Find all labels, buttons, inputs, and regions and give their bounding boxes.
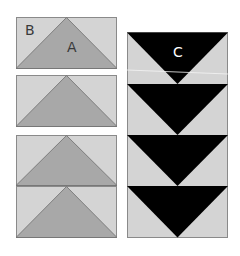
goose-unit-2-shape <box>16 75 117 127</box>
label-b: B <box>25 22 35 38</box>
label-c: C <box>173 44 183 60</box>
goose-unit-2 <box>16 75 117 127</box>
goose-unit-1: B A <box>16 17 117 69</box>
flying-geese-strip: C <box>127 32 228 238</box>
label-a: A <box>67 39 77 55</box>
flying-geese-strip-shape <box>127 32 228 238</box>
goose-unit-4-shape <box>16 186 117 238</box>
goose-unit-3-shape <box>16 135 117 186</box>
goose-unit-3 <box>16 135 117 186</box>
goose-unit-4 <box>16 186 117 238</box>
